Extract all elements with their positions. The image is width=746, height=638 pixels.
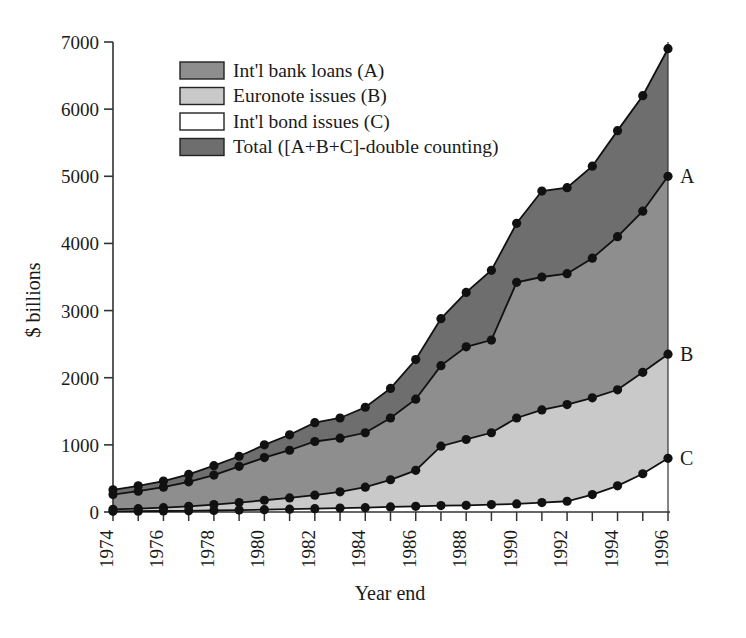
data-point-marker [512, 219, 521, 228]
data-point-marker [613, 126, 622, 135]
data-point-marker [335, 434, 344, 443]
data-point-marker [588, 162, 597, 171]
y-axis-label: $ billions [22, 262, 44, 337]
data-point-marker [209, 470, 218, 479]
y-tick-labels: 01000200030004000500060007000 [61, 32, 99, 523]
x-axis-label: Year end [355, 582, 426, 604]
data-point-marker [613, 481, 622, 490]
data-point-marker [361, 483, 370, 492]
legend-swatch [180, 139, 224, 156]
data-point-marker [386, 384, 395, 393]
data-point-marker [663, 454, 672, 463]
data-point-marker [588, 490, 597, 499]
y-tick-label: 1000 [61, 435, 99, 456]
data-point-marker [159, 506, 168, 515]
data-point-marker [562, 183, 571, 192]
data-point-marker [663, 44, 672, 53]
x-tick-label: 1988 [449, 530, 470, 568]
data-point-marker [512, 499, 521, 508]
legend-swatch [180, 62, 224, 79]
x-tick-label: 1980 [247, 530, 268, 568]
line-area-chart: 01000200030004000500060007000 1974197619… [0, 0, 746, 638]
data-point-marker [462, 288, 471, 297]
y-tick-label: 3000 [61, 301, 99, 322]
data-point-marker [638, 91, 647, 100]
y-tick-label: 2000 [61, 368, 99, 389]
data-point-marker [411, 502, 420, 511]
data-point-marker [562, 497, 571, 506]
data-point-marker [588, 254, 597, 263]
data-point-marker [335, 413, 344, 422]
data-point-marker [184, 506, 193, 515]
data-point-marker [436, 314, 445, 323]
data-point-marker [159, 483, 168, 492]
data-point-marker [361, 403, 370, 412]
data-point-marker [310, 491, 319, 500]
data-point-marker [285, 430, 294, 439]
data-point-marker [663, 172, 672, 181]
data-point-marker [613, 385, 622, 394]
data-point-marker [260, 496, 269, 505]
data-point-marker [436, 361, 445, 370]
data-point-marker [361, 503, 370, 512]
y-tick-label: 7000 [61, 32, 99, 53]
data-point-marker [310, 418, 319, 427]
data-point-marker [512, 278, 521, 287]
data-point-marker [638, 368, 647, 377]
y-tick-label: 6000 [61, 99, 99, 120]
data-point-marker [562, 269, 571, 278]
x-tick-label: 1994 [601, 530, 622, 569]
data-point-marker [512, 413, 521, 422]
data-point-marker [562, 400, 571, 409]
data-point-marker [537, 272, 546, 281]
data-point-marker [209, 506, 218, 515]
data-point-marker [663, 350, 672, 359]
data-point-marker [386, 413, 395, 422]
series-edge-label-c: C [680, 447, 693, 469]
x-tick-label: 1976 [146, 530, 167, 568]
data-point-marker [436, 442, 445, 451]
data-point-marker [310, 504, 319, 513]
data-point-marker [487, 500, 496, 509]
x-tick-label: 1996 [651, 530, 672, 568]
x-tick-label: 1992 [550, 530, 571, 568]
data-point-marker [487, 266, 496, 275]
data-point-marker [108, 507, 117, 516]
data-point-marker [235, 462, 244, 471]
data-point-marker [487, 428, 496, 437]
data-point-marker [588, 393, 597, 402]
legend-label: Total ([A+B+C]-double counting) [233, 136, 498, 158]
series-edge-labels: ABC [680, 165, 695, 469]
data-point-marker [638, 207, 647, 216]
data-point-marker [361, 428, 370, 437]
data-point-marker [335, 487, 344, 496]
x-tick-label: 1984 [348, 530, 369, 569]
legend-label: Int'l bond issues (C) [233, 111, 390, 133]
data-point-marker [386, 502, 395, 511]
data-point-marker [462, 435, 471, 444]
figure-caption [42, 620, 732, 638]
data-point-marker [411, 466, 420, 475]
data-point-marker [613, 232, 622, 241]
y-tick-label: 5000 [61, 166, 99, 187]
data-point-marker [335, 504, 344, 513]
data-point-marker [235, 452, 244, 461]
data-point-marker [134, 487, 143, 496]
legend-label: Euronote issues (B) [233, 85, 387, 107]
data-point-marker [537, 405, 546, 414]
data-point-marker [487, 336, 496, 345]
data-point-marker [209, 461, 218, 470]
data-point-marker [260, 505, 269, 514]
data-point-marker [285, 446, 294, 455]
data-point-marker [260, 453, 269, 462]
legend-label: Int'l bank loans (A) [233, 60, 384, 82]
x-tick-label: 1982 [298, 530, 319, 568]
data-point-marker [285, 505, 294, 514]
data-point-marker [537, 498, 546, 507]
data-point-marker [638, 469, 647, 478]
x-tick-labels: 1974197619781980198219841986198819901992… [96, 530, 672, 569]
x-tick-label: 1974 [96, 530, 117, 569]
x-tick-label: 1990 [500, 530, 521, 568]
x-tick-label: 1978 [197, 530, 218, 568]
y-tick-label: 4000 [61, 233, 99, 254]
